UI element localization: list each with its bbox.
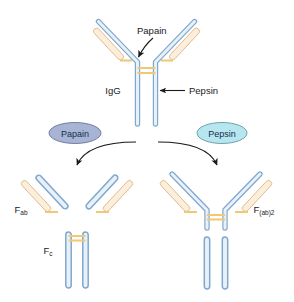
pepsin-badge-label: Pepsin (208, 129, 236, 139)
papain-badge: Papain (49, 123, 101, 144)
papain-badge-label: Papain (61, 129, 89, 139)
pepsin-badge: Pepsin (197, 123, 247, 144)
papain-callout-label: Papain (137, 25, 167, 36)
fc-stub-right (222, 237, 227, 289)
diagram-canvas: Papain IgG Pepsin Papain Pepsin Fab (0, 0, 294, 302)
pepsin-callout-label: Pepsin (189, 85, 218, 96)
canvas-background (0, 0, 294, 302)
fab-label-subscript: ab (20, 209, 28, 216)
igg-label: IgG (105, 85, 120, 96)
antibody-cleavage-diagram: Papain IgG Pepsin Papain Pepsin Fab (0, 0, 294, 302)
fc-stub-left (204, 237, 209, 289)
fab2-label-subscript: (ab)2 (259, 209, 275, 217)
